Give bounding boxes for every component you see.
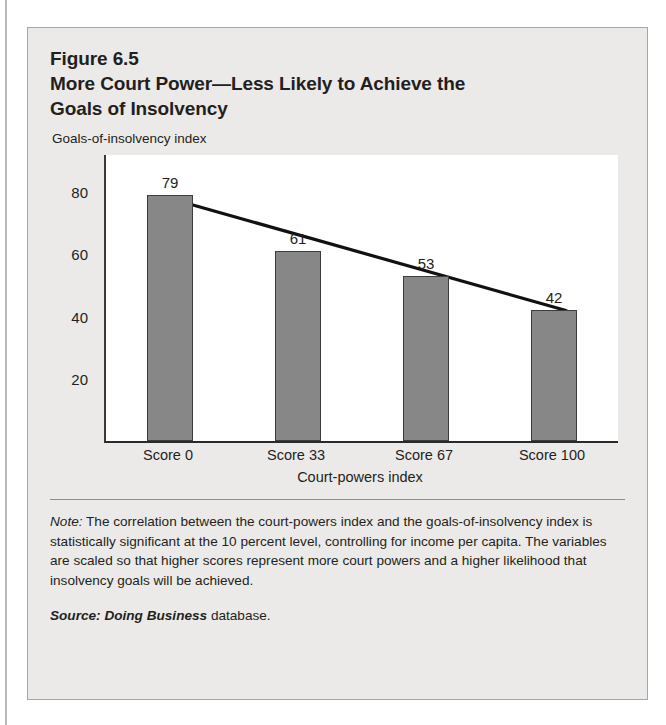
bar — [147, 195, 193, 441]
figure-title-line-2: Goals of Insolvency — [50, 96, 625, 121]
bar — [403, 276, 449, 441]
y-axis-tick-label: 80 — [71, 184, 88, 201]
x-axis-tick-labels: Score 0Score 33Score 67Score 100 — [104, 447, 616, 469]
y-axis-tick-label: 40 — [71, 308, 88, 325]
source: Source: Doing Business database. — [50, 606, 625, 625]
figure-card-inner: Figure 6.5 More Court Power—Less Likely … — [28, 28, 647, 699]
note-text: The correlation between the court-powers… — [50, 514, 607, 588]
source-label: Source: — [50, 608, 101, 623]
x-axis-title: Court-powers index — [104, 469, 616, 485]
plot-frame: 79615342 — [104, 155, 618, 443]
page-edge-rule — [5, 0, 7, 725]
x-axis-tick-label: Score 67 — [395, 447, 453, 463]
chart: 20406080 79615342 Score 0Score 33Score 6… — [50, 155, 626, 485]
y-axis-tick-labels: 20406080 — [50, 155, 96, 455]
source-publication: Doing Business — [101, 608, 208, 623]
figure-header: Figure 6.5 More Court Power—Less Likely … — [50, 46, 625, 121]
bar-value-label: 61 — [290, 230, 307, 247]
bar-value-label: 53 — [418, 255, 435, 272]
source-suffix: database. — [207, 608, 271, 623]
y-axis-tick-label: 60 — [71, 246, 88, 263]
bar-value-label: 42 — [546, 289, 563, 306]
x-axis-tick-label: Score 33 — [267, 447, 325, 463]
figure-title-line-1: More Court Power—Less Likely to Achieve … — [50, 71, 625, 96]
bar — [275, 251, 321, 441]
figure-number: Figure 6.5 — [50, 46, 625, 71]
x-axis-tick-label: Score 100 — [519, 447, 585, 463]
bar — [531, 310, 577, 441]
plot-area: 79615342 — [106, 155, 618, 441]
bar-value-label: 79 — [162, 174, 179, 191]
figure-card: Figure 6.5 More Court Power—Less Likely … — [27, 27, 648, 700]
y-axis-title: Goals-of-insolvency index — [52, 131, 625, 147]
note-label: Note: — [50, 514, 83, 529]
y-axis-tick-label: 20 — [71, 370, 88, 387]
section-divider — [50, 499, 625, 500]
x-axis-tick-label: Score 0 — [143, 447, 193, 463]
note: Note: The correlation between the court-… — [50, 512, 625, 590]
